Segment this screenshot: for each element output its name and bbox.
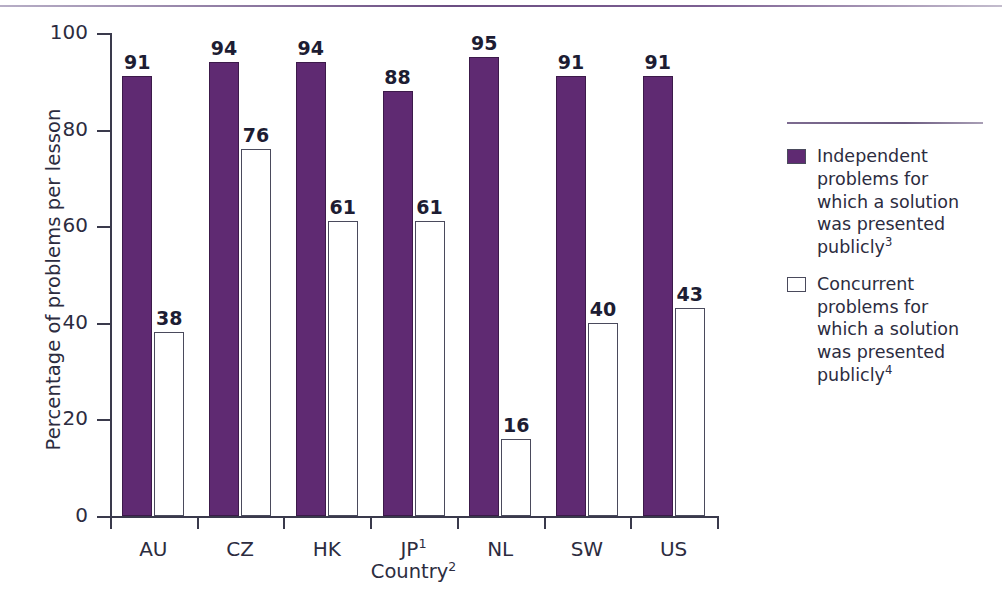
- bar-concurrent: 76: [241, 149, 271, 516]
- y-axis-tick-label: 60: [63, 213, 88, 237]
- x-axis-title: Country2: [110, 560, 717, 583]
- x-axis-tick-label: US: [614, 537, 734, 561]
- legend-item-superscript: 3: [885, 235, 892, 249]
- bar-value-label: 91: [644, 51, 670, 73]
- bar-value-label: 94: [298, 37, 324, 59]
- y-axis-tick-label: 80: [63, 117, 88, 141]
- bar-independent: 91: [556, 76, 586, 516]
- x-axis-tick: [544, 516, 546, 529]
- y-axis-title: Percentage of problems per lesson: [42, 20, 65, 540]
- bar-value-label: 94: [211, 37, 237, 59]
- x-axis-tick: [370, 516, 372, 529]
- y-axis-tick: 0: [97, 516, 110, 518]
- bar-independent: 88: [383, 91, 413, 516]
- y-axis-tick: 40: [97, 323, 110, 325]
- bar-value-label: 43: [676, 283, 702, 305]
- legend-item-label: Independent problems for which a solutio…: [817, 145, 979, 259]
- y-axis-tick-label: 0: [75, 503, 88, 527]
- x-axis-title-superscript: 2: [448, 559, 456, 574]
- bar-chart-figure: Percentage of problems per lesson 020406…: [0, 0, 1002, 605]
- legend-item-label: Concurrent problems for which a solution…: [817, 273, 979, 387]
- bar-value-label: 61: [330, 196, 356, 218]
- y-axis-tick-label: 40: [63, 310, 88, 334]
- chart-legend: Independent problems for which a solutio…: [787, 122, 987, 401]
- legend-items: Independent problems for which a solutio…: [787, 145, 987, 387]
- y-axis-tick-label: 20: [63, 406, 88, 430]
- y-axis-tick: 80: [97, 130, 110, 132]
- bar-concurrent: 61: [328, 221, 358, 516]
- y-axis-tick: 100: [97, 33, 110, 35]
- y-axis-tick-label: 100: [50, 20, 88, 44]
- bar-concurrent: 61: [415, 221, 445, 516]
- x-axis-tick: [457, 516, 459, 529]
- legend-item: Concurrent problems for which a solution…: [787, 273, 987, 387]
- bar-concurrent: 16: [501, 439, 531, 516]
- bar-value-label: 38: [156, 307, 182, 329]
- bar-independent: 91: [643, 76, 673, 516]
- bar-concurrent: 40: [588, 323, 618, 516]
- legend-item: Independent problems for which a solutio…: [787, 145, 987, 259]
- bar-value-label: 95: [471, 32, 497, 54]
- x-axis-tick: [110, 516, 112, 529]
- bar-value-label: 16: [503, 414, 529, 436]
- bar-value-label: 88: [384, 66, 410, 88]
- bar-value-label: 61: [416, 196, 442, 218]
- y-axis-tick: 20: [97, 419, 110, 421]
- bar-independent: 94: [296, 62, 326, 516]
- y-axis-line: [110, 33, 112, 516]
- y-axis-tick: 60: [97, 226, 110, 228]
- legend-item-superscript: 4: [885, 363, 892, 377]
- bar-value-label: 40: [590, 298, 616, 320]
- x-axis-tick-label-superscript: 1: [418, 536, 426, 551]
- bar-value-label: 76: [243, 124, 269, 146]
- legend-swatch-independent: [787, 149, 806, 164]
- bar-concurrent: 38: [154, 332, 184, 516]
- bar-value-label: 91: [124, 51, 150, 73]
- x-axis-tick: [283, 516, 285, 529]
- bar-independent: 94: [209, 62, 239, 516]
- bar-independent: 91: [122, 76, 152, 516]
- bar-value-label: 91: [558, 51, 584, 73]
- legend-swatch-concurrent: [787, 277, 806, 292]
- x-axis-tick: [630, 516, 632, 529]
- bar-independent: 95: [469, 57, 499, 516]
- legend-divider-rule: [787, 122, 983, 124]
- plot-area: 020406080100 AUCZHKJP1NLSWUS 91389476946…: [110, 33, 717, 516]
- x-axis-tick: [197, 516, 199, 529]
- bar-concurrent: 43: [675, 308, 705, 516]
- x-axis-line: [110, 516, 717, 518]
- x-axis-tick: [717, 516, 719, 529]
